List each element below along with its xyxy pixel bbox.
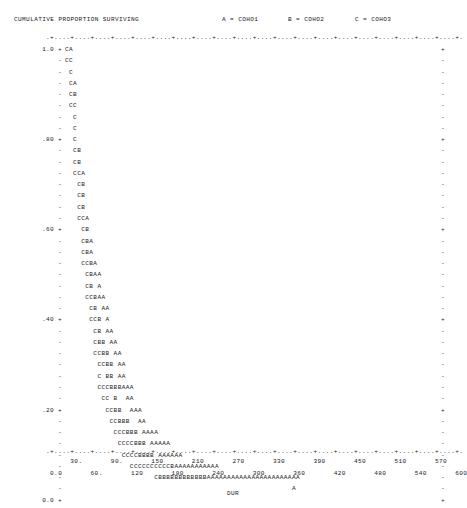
plot-row: - CBA- — [0, 236, 466, 247]
plot-row: - CBA- — [0, 247, 466, 258]
top-axis-rule: .+....+....+....+....+....+....+....+...… — [46, 33, 463, 42]
plot-row: - CB- — [0, 157, 466, 168]
plot-row: - CB- — [0, 145, 466, 156]
right-axis-tick-mark: - — [441, 247, 445, 258]
y-axis-tick-mark: - — [58, 359, 62, 370]
plot-row: - CCBB AA- — [0, 348, 466, 359]
plot-row-symbols: C — [65, 134, 77, 145]
y-axis-tick-mark: - — [58, 393, 62, 404]
right-axis-tick-mark: - — [441, 337, 445, 348]
y-axis-tick-mark: - — [58, 371, 62, 382]
right-axis-tick-mark: - — [441, 157, 445, 168]
y-axis-tick-mark: - — [58, 112, 62, 123]
y-axis-tick-label: .20 — [0, 405, 54, 416]
page-title: CUMULATIVE PROPORTION SURVIVING — [14, 16, 139, 23]
plot-row: - C BB AA- — [0, 371, 466, 382]
right-axis-tick-mark: - — [441, 179, 445, 190]
plot-row: - CC B AA- — [0, 393, 466, 404]
right-axis-tick-mark: + — [441, 224, 445, 235]
plot-row: - CB- — [0, 190, 466, 201]
plot-row: - CCA- — [0, 168, 466, 179]
plot-row-symbols: CCA — [65, 168, 85, 179]
plot-row: - CCCBBB AAAA- — [0, 427, 466, 438]
plot-row-symbols: CCBB AAA — [65, 405, 142, 416]
plot-row-symbols: C BB AA — [65, 371, 126, 382]
plot-row: - CCA- — [0, 213, 466, 224]
plot-row: - CA- — [0, 78, 466, 89]
x-axis-title: DUR — [0, 490, 466, 497]
plot-row-symbols: C — [65, 112, 77, 123]
y-axis-tick-mark: - — [58, 281, 62, 292]
right-axis-tick-mark: - — [441, 359, 445, 370]
right-axis-tick-mark: - — [441, 258, 445, 269]
right-axis-tick-mark: - — [441, 112, 445, 123]
y-axis-tick-mark: - — [58, 337, 62, 348]
y-axis-tick-mark: - — [58, 190, 62, 201]
plot-row: - CC- — [0, 100, 466, 111]
x-axis-ticks-upper: 30. 90. 150 210 270 330 390 450 510 570 — [46, 457, 447, 467]
right-axis-tick-mark: + — [441, 134, 445, 145]
right-axis-tick-mark: - — [441, 348, 445, 359]
plot-row-symbols: CB — [65, 157, 81, 168]
plot-row: - CCBAA- — [0, 292, 466, 303]
plot-row-symbols: CA — [65, 44, 73, 55]
y-axis-tick-mark: - — [58, 382, 62, 393]
right-axis-tick-mark: - — [441, 416, 445, 427]
right-axis-tick-mark: - — [441, 100, 445, 111]
plot-row-symbols: CCBBB AA — [65, 416, 146, 427]
plot-row-symbols: CB — [65, 145, 81, 156]
y-axis-tick-label: 1.0 — [0, 44, 54, 55]
legend-entry-coho3: C = COHO3 — [355, 16, 391, 23]
y-axis-tick-mark: - — [58, 416, 62, 427]
right-axis-tick-mark: - — [441, 269, 445, 280]
plot-row-symbols: CCBB AA — [65, 359, 126, 370]
plot-row-symbols: CBA — [65, 236, 93, 247]
y-axis-tick-mark: + — [58, 314, 62, 325]
plot-row: 1.0+CA+ — [0, 44, 466, 55]
right-axis-tick-mark: + — [441, 405, 445, 416]
y-axis-tick-mark: - — [58, 348, 62, 359]
y-axis-tick-mark: + — [58, 405, 62, 416]
y-axis-tick-mark: - — [58, 292, 62, 303]
plot-row: - CBAA- — [0, 269, 466, 280]
right-axis-tick-mark: - — [441, 427, 445, 438]
right-axis-tick-mark: - — [441, 123, 445, 134]
right-axis-tick-mark: - — [441, 89, 445, 100]
right-axis-tick-mark: - — [441, 145, 445, 156]
plot-row: - CCCBBBAAA- — [0, 382, 466, 393]
right-axis-tick-mark: - — [441, 382, 445, 393]
plot-row-symbols: C — [65, 67, 73, 78]
plot-row-symbols: CB — [65, 202, 85, 213]
plot-row: - CCBB AA- — [0, 359, 466, 370]
plot-row-symbols: CCBB AA — [65, 348, 122, 359]
plot-row: - CB- — [0, 179, 466, 190]
plot-row-symbols: CCCBBBAAA — [65, 382, 134, 393]
right-axis-tick-mark: - — [441, 292, 445, 303]
plot-row: - C- — [0, 112, 466, 123]
right-axis-tick-mark: - — [441, 326, 445, 337]
right-axis-tick-mark: + — [441, 44, 445, 55]
right-axis-tick-mark: - — [441, 202, 445, 213]
right-axis-tick-mark: - — [441, 213, 445, 224]
plot-row-symbols: CB — [65, 224, 89, 235]
right-axis-tick-mark: - — [441, 55, 445, 66]
plot-row-symbols: CCBAA — [65, 292, 106, 303]
plot-row-symbols: CB A — [65, 281, 101, 292]
y-axis-tick-mark: - — [58, 236, 62, 247]
plot-row: - C- — [0, 67, 466, 78]
plot-row: - CB A- — [0, 281, 466, 292]
right-axis-tick-mark: - — [441, 67, 445, 78]
plot-row-symbols: CCA — [65, 213, 89, 224]
right-axis-tick-mark: + — [441, 314, 445, 325]
plot-row: - CB- — [0, 89, 466, 100]
y-axis-tick-mark: - — [58, 179, 62, 190]
plot-row-symbols: C — [65, 123, 77, 134]
y-axis-tick-mark: - — [58, 168, 62, 179]
plot-row: .40+ CCB A+ — [0, 314, 466, 325]
plot-row: - C- — [0, 123, 466, 134]
plot-row-symbols: CB — [65, 89, 77, 100]
y-axis-tick-mark: + — [58, 44, 62, 55]
y-axis-tick-mark: - — [58, 123, 62, 134]
plot-row-symbols: CC B AA — [65, 393, 134, 404]
